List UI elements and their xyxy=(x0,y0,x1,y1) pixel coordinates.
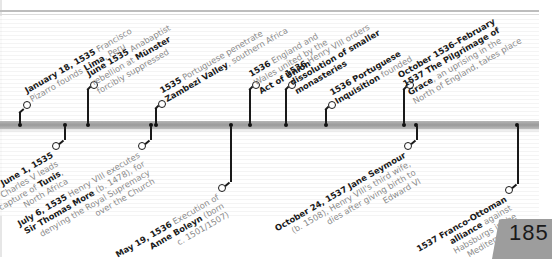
top-rule-secondary xyxy=(0,14,539,15)
connector-pilgrimage xyxy=(403,89,405,124)
marker-ring-ottoman xyxy=(505,186,513,194)
connector-more xyxy=(150,126,152,140)
timeline-bar-shadow xyxy=(0,129,539,133)
connector-ottoman xyxy=(517,126,519,184)
marker-ring-zambezi xyxy=(158,100,166,108)
connector-pizarro xyxy=(19,112,21,124)
connector-seymour xyxy=(416,126,418,140)
marker-ring-inquisition xyxy=(328,101,336,109)
connector-union xyxy=(249,89,251,124)
marker-ring-pizarro xyxy=(23,101,31,109)
marker-ring-boleyn xyxy=(218,184,226,192)
marker-ring-tunis xyxy=(52,142,60,150)
page-number: 185 xyxy=(509,220,549,246)
connector-munster xyxy=(87,89,89,124)
connector-boleyn xyxy=(230,126,232,182)
timeline-bar xyxy=(0,121,539,129)
top-rule xyxy=(0,10,539,12)
connector-zambezi xyxy=(155,108,157,124)
marker-ring-more xyxy=(138,142,146,150)
connector-tunis xyxy=(64,126,66,140)
marker-ring-seymour xyxy=(404,142,412,150)
connector-monasteries xyxy=(285,89,287,124)
connector-inquisition xyxy=(325,109,327,124)
